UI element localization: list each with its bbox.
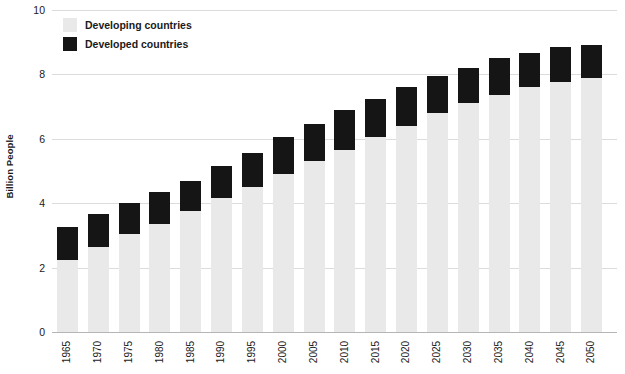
- y-axis-title-label: Billion People: [4, 134, 15, 198]
- x-tick-label-2050: 2050: [581, 334, 602, 374]
- legend-item-developing[interactable]: Developing countries: [63, 18, 192, 32]
- bar-segment-1990-developed[interactable]: [211, 166, 232, 198]
- bar-segment-1970-developing[interactable]: [88, 247, 109, 332]
- plot-area: 0246810: [52, 10, 617, 332]
- bar-segment-1985-developing[interactable]: [180, 211, 201, 332]
- y-tick-label-10: 10: [33, 5, 45, 16]
- x-tick-label-2040: 2040: [519, 334, 540, 374]
- x-tick-text: 2040: [525, 341, 535, 363]
- legend-label: Developing countries: [85, 20, 192, 31]
- bar-segment-1990-developing[interactable]: [211, 198, 232, 332]
- bar-segment-1980-developed[interactable]: [149, 192, 170, 224]
- legend-item-developed[interactable]: Developed countries: [63, 37, 192, 51]
- bar-segment-2045-developed[interactable]: [550, 47, 571, 82]
- x-tick-label-1980: 1980: [149, 334, 170, 374]
- x-tick-text: 2025: [432, 341, 442, 363]
- x-tick-label-2030: 2030: [458, 334, 479, 374]
- bar-segment-2050-developing[interactable]: [581, 78, 602, 332]
- x-tick-text: 2005: [309, 341, 319, 363]
- bar-segment-2030-developed[interactable]: [458, 68, 479, 103]
- bar-segment-2025-developed[interactable]: [427, 76, 448, 113]
- bar-segment-2020-developing[interactable]: [396, 126, 417, 332]
- x-tick-text: 1980: [155, 341, 165, 363]
- bar-segment-2000-developed[interactable]: [273, 137, 294, 174]
- y-tick-label-6: 6: [39, 134, 45, 145]
- bar-segment-2005-developed[interactable]: [304, 124, 325, 161]
- x-tick-text: 2035: [494, 341, 504, 363]
- y-axis-title: Billion People: [0, 0, 18, 332]
- x-tick-text: 2030: [463, 341, 473, 363]
- bar-segment-2045-developing[interactable]: [550, 82, 571, 332]
- x-tick-text: 2045: [556, 341, 566, 363]
- x-tick-label-2000: 2000: [273, 334, 294, 374]
- x-tick-text: 2050: [587, 341, 597, 363]
- x-tick-label-2005: 2005: [304, 334, 325, 374]
- x-tick-label-2035: 2035: [489, 334, 510, 374]
- x-tick-label-2015: 2015: [365, 334, 386, 374]
- x-tick-text: 1970: [93, 341, 103, 363]
- bar-segment-1995-developing[interactable]: [242, 187, 263, 332]
- legend-label: Developed countries: [85, 39, 188, 50]
- bar-segment-2035-developing[interactable]: [489, 95, 510, 332]
- x-tick-text: 1995: [247, 341, 257, 363]
- x-tick-label-1985: 1985: [180, 334, 201, 374]
- gridline-0: [52, 332, 617, 333]
- bar-segment-2025-developing[interactable]: [427, 113, 448, 332]
- population-stacked-bar-chart: Billion People 0246810 19651970197519801…: [0, 0, 625, 374]
- x-tick-text: 1990: [217, 341, 227, 363]
- bar-segment-1975-developed[interactable]: [119, 203, 140, 234]
- x-tick-text: 1985: [186, 341, 196, 363]
- bar-segment-1985-developed[interactable]: [180, 181, 201, 212]
- x-axis-tick-labels: 1965197019751980198519901995200020052010…: [52, 334, 617, 374]
- legend-swatch-developing: [63, 18, 77, 32]
- bar-segment-1995-developed[interactable]: [242, 153, 263, 187]
- y-tick-label-0: 0: [39, 327, 45, 338]
- bar-segment-2000-developing[interactable]: [273, 174, 294, 332]
- bar-segment-1975-developing[interactable]: [119, 234, 140, 332]
- bars-container: [52, 10, 617, 332]
- x-tick-label-1975: 1975: [119, 334, 140, 374]
- x-tick-text: 2000: [278, 341, 288, 363]
- bar-segment-2040-developing[interactable]: [519, 87, 540, 332]
- x-tick-label-2045: 2045: [550, 334, 571, 374]
- chart-legend: Developing countriesDeveloped countries: [63, 18, 192, 51]
- bar-segment-2020-developed[interactable]: [396, 87, 417, 126]
- bar-segment-2030-developing[interactable]: [458, 103, 479, 332]
- y-tick-label-8: 8: [39, 69, 45, 80]
- bar-segment-2050-developed[interactable]: [581, 45, 602, 77]
- x-tick-text: 2015: [371, 341, 381, 363]
- x-tick-text: 1975: [124, 341, 134, 363]
- bar-segment-1965-developed[interactable]: [57, 227, 78, 259]
- bar-segment-2010-developing[interactable]: [334, 150, 355, 332]
- y-tick-label-4: 4: [39, 198, 45, 209]
- bar-segment-1965-developing[interactable]: [57, 260, 78, 332]
- bar-segment-2010-developed[interactable]: [334, 110, 355, 150]
- x-tick-label-1965: 1965: [57, 334, 78, 374]
- bar-segment-2015-developing[interactable]: [365, 137, 386, 332]
- bar-segment-2005-developing[interactable]: [304, 161, 325, 332]
- x-tick-label-2025: 2025: [427, 334, 448, 374]
- x-tick-text: 1965: [62, 341, 72, 363]
- x-tick-label-1970: 1970: [88, 334, 109, 374]
- x-tick-text: 2010: [340, 341, 350, 363]
- bar-segment-2015-developed[interactable]: [365, 99, 386, 138]
- bar-segment-1980-developing[interactable]: [149, 224, 170, 332]
- bar-segment-1970-developed[interactable]: [88, 214, 109, 246]
- bar-segment-2035-developed[interactable]: [489, 58, 510, 95]
- x-tick-label-1995: 1995: [242, 334, 263, 374]
- legend-swatch-developed: [63, 37, 77, 51]
- x-tick-label-2010: 2010: [334, 334, 355, 374]
- bar-segment-2040-developed[interactable]: [519, 53, 540, 87]
- x-tick-label-1990: 1990: [211, 334, 232, 374]
- x-tick-text: 2020: [402, 341, 412, 363]
- x-tick-label-2020: 2020: [396, 334, 417, 374]
- y-tick-label-2: 2: [39, 262, 45, 273]
